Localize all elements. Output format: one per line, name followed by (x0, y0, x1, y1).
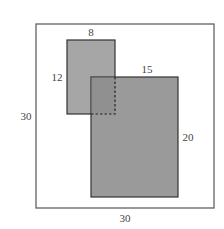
small-height-label: 12 (52, 71, 63, 83)
small-width-label: 8 (88, 26, 94, 38)
large-height-label: 20 (183, 131, 195, 143)
outer-width-label: 30 (120, 212, 132, 224)
overlap-region (92, 78, 115, 114)
outer-height-label: 30 (21, 110, 33, 122)
geometry-diagram: 8 12 15 20 30 30 (0, 0, 224, 229)
large-width-label: 15 (142, 63, 154, 75)
